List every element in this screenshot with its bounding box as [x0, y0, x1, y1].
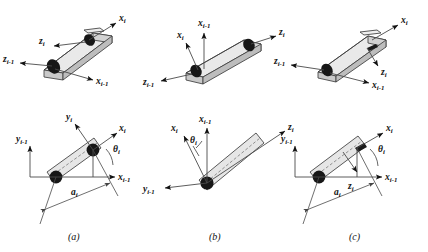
ext-line-a-2: [93, 150, 118, 196]
caption-b: (b): [209, 231, 221, 243]
label-y-i: yi: [65, 112, 72, 123]
panel-a-top: xi zi zi-1 xi-1: [2, 13, 126, 87]
link-body-a-top: [44, 28, 112, 80]
link-body-b-top: [186, 37, 261, 84]
label-x-i: xi: [118, 123, 126, 134]
label-x-i: xi: [118, 13, 126, 24]
panel-c-top: xi zi zi-1 xi-1: [273, 15, 408, 91]
label-z-i: zi: [380, 67, 387, 78]
ext-line-c-1: [303, 177, 319, 224]
axis-z-i-1-c-top: [291, 65, 324, 70]
label-a-i: ai: [334, 187, 341, 198]
label-x-i-1: xi-1: [198, 114, 211, 125]
dim-a-i-c: [309, 183, 374, 209]
label-x-i-1: xi-1: [95, 76, 108, 87]
label-z-i: zi: [38, 36, 45, 47]
theta-arc-c: [370, 149, 378, 166]
label-y-i-1: yi-1: [15, 134, 28, 145]
label-y-i-1: yi-1: [142, 184, 155, 195]
panel-a-bottom: yi-1 yi xi θi xi-1 ai (a): [15, 112, 130, 243]
axis-z-i-b: [207, 131, 285, 183]
label-x-i-1: xi-1: [117, 172, 130, 183]
axis-y-i-1-b: [165, 183, 207, 188]
label-x-i: xi: [400, 15, 408, 26]
dim-a-i-a: [46, 183, 110, 209]
caption-a: (a): [68, 231, 80, 243]
label-z-i: zi: [278, 27, 285, 38]
label-z-i-1: zi-1: [273, 56, 285, 67]
label-theta-i: θi: [113, 144, 120, 155]
panel-c-bottom: yi-1 xi θi xi-1 zi ai (c): [280, 123, 397, 243]
label-a-i: ai: [71, 187, 78, 198]
label-y-i-1: yi-1: [280, 134, 293, 145]
panel-b-bottom: xi-1 xi θi zi yi-1 (b): [142, 114, 294, 243]
label-x-i-1: xi-1: [384, 172, 397, 183]
axis-z-i-b-top: [251, 36, 276, 44]
label-theta-i: θi: [190, 135, 197, 146]
panel-b-top: xi xi-1 zi zi-1: [142, 18, 285, 88]
label-x-i: xi: [176, 30, 184, 41]
figure-canvas: xi zi zi-1 xi-1 xi xi-1 zi zi-1: [0, 0, 428, 252]
theta-arc-a: [106, 149, 113, 165]
label-z-i-1: zi-1: [142, 77, 154, 88]
label-z-i: zi: [347, 181, 354, 192]
caption-c: (c): [349, 231, 361, 243]
label-z-i-1: zi-1: [2, 54, 14, 65]
dh-diagram: xi zi zi-1 xi-1 xi xi-1 zi zi-1: [0, 0, 428, 252]
theta-arc-b: [196, 141, 202, 148]
label-x-i: xi: [170, 123, 178, 134]
label-x-i-1: xi-1: [371, 80, 384, 91]
ext-line-a-1: [40, 177, 56, 224]
link-body-c-bottom: [310, 136, 367, 183]
ext-line-c-2: [357, 148, 382, 196]
label-x-i-1: xi-1: [197, 18, 210, 29]
label-theta-i: θi: [378, 144, 385, 155]
label-z-i: zi: [287, 122, 294, 133]
label-x-i: xi: [385, 123, 393, 134]
